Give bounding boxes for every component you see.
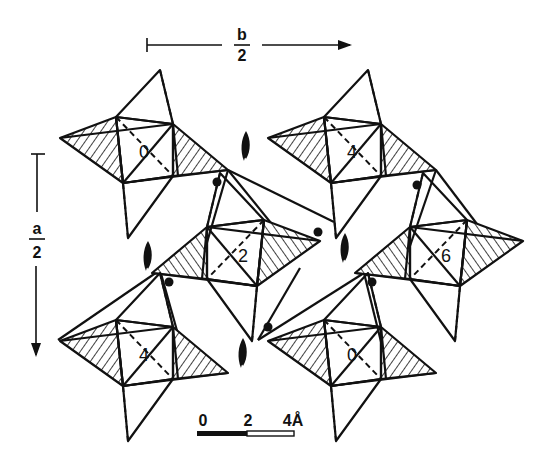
cluster-label: 0 bbox=[139, 142, 149, 162]
dot-marker bbox=[368, 278, 377, 287]
dot-marker bbox=[314, 228, 323, 237]
b-axis-denominator: 2 bbox=[238, 47, 247, 64]
cluster-label-2: 2 bbox=[238, 246, 248, 266]
a-axis-numerator: a bbox=[33, 220, 42, 237]
scale-bar: 0 2 4Å bbox=[197, 411, 304, 436]
cluster-label: 4 bbox=[139, 345, 149, 365]
b-axis-indicator: b 2 bbox=[147, 26, 350, 64]
dot-marker bbox=[413, 181, 422, 190]
dot-marker bbox=[264, 323, 273, 332]
cluster-label: 4 bbox=[347, 142, 357, 162]
b-axis-numerator: b bbox=[237, 26, 247, 43]
cluster-label-6: 6 bbox=[441, 246, 451, 266]
screw-axis-icon bbox=[239, 338, 247, 368]
screw-axis-icon bbox=[341, 233, 349, 263]
scale-label-0: 0 bbox=[199, 412, 208, 429]
scale-label-2: 2 bbox=[244, 412, 253, 429]
screw-axis-icon bbox=[242, 131, 250, 161]
dot-marker bbox=[165, 278, 174, 287]
a-axis-denominator: 2 bbox=[33, 244, 42, 261]
cluster-4-top: 4 bbox=[268, 70, 436, 238]
scale-label-4A: 4Å bbox=[283, 411, 304, 429]
dot-marker bbox=[213, 178, 222, 187]
cluster-6 bbox=[355, 173, 523, 341]
crystal-structure-diagram: b 2 a 2 0 4 2 6 4 bbox=[0, 0, 557, 464]
cluster-label: 0 bbox=[347, 345, 357, 365]
cluster-0-top: 0 bbox=[60, 70, 228, 238]
a-axis-indicator: a 2 bbox=[29, 154, 45, 355]
screw-axis-icon bbox=[144, 241, 152, 271]
